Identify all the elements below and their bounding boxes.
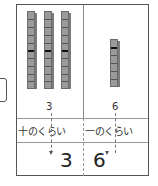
place-value-chart: 3 6 十のくらい 一のくらい 3 6	[16, 4, 149, 176]
tens-digit: 3	[60, 148, 73, 172]
ten-rod-3	[61, 11, 69, 89]
row-divider-top	[17, 118, 148, 119]
ones-cube-stack	[110, 39, 118, 87]
tens-arrow	[51, 113, 52, 153]
tens-place-label: 十のくらい	[18, 123, 66, 138]
side-answer-box	[0, 78, 7, 102]
ten-rod-2	[44, 11, 52, 89]
row-divider-bottom	[17, 142, 148, 143]
ones-arrow	[115, 113, 116, 153]
ones-place-label: 一のくらい	[85, 123, 133, 138]
ten-rod-1	[27, 11, 35, 89]
tens-count-label: 3	[46, 101, 52, 112]
ones-count-label: 6	[112, 101, 118, 112]
tens-arrow-head-icon	[49, 151, 53, 155]
ones-digit: 6	[93, 148, 106, 172]
column-divider-dashed	[83, 118, 84, 176]
column-divider	[83, 5, 84, 118]
